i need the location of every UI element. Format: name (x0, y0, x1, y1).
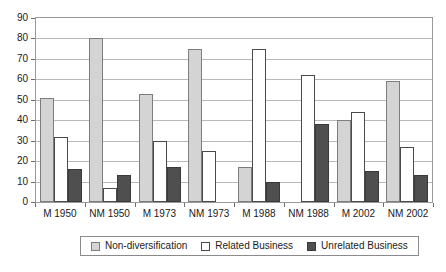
bar-related-business (202, 151, 216, 202)
legend-swatch-unrelated-business (307, 242, 316, 251)
legend-label: Related Business (215, 241, 293, 251)
bar-related-business (301, 75, 315, 202)
legend-entry[interactable]: Related Business (201, 241, 293, 251)
bar-group (135, 18, 185, 202)
bar-unrelated-business (315, 124, 329, 202)
bar-related-business (400, 147, 414, 202)
y-tick-label: 80 (17, 33, 28, 43)
x-axis-label: NM 1988 (284, 208, 334, 220)
y-tick-label: 90 (17, 13, 28, 23)
y-tick-label: 70 (17, 54, 28, 64)
legend-swatch-related-business (201, 242, 210, 251)
bar-unrelated-business (414, 175, 428, 202)
x-tick-mark (383, 203, 384, 207)
y-tick-label: 30 (17, 136, 28, 146)
x-axis-label: M 1950 (35, 208, 85, 220)
bar-non-diversification (40, 98, 54, 202)
legend-entry[interactable]: Non-diversification (91, 241, 187, 251)
legend-label: Unrelated Business (321, 241, 408, 251)
bar-non-diversification (188, 49, 202, 202)
bar-related-business (153, 141, 167, 202)
x-axis: M 1950NM 1950M 1973NM 1973M 1988NM 1988M… (35, 203, 433, 225)
bar-group (383, 18, 433, 202)
y-tick-label: 50 (17, 95, 28, 105)
bar-group (284, 18, 334, 202)
bar-group (333, 18, 383, 202)
y-tick-label: 0 (22, 197, 28, 207)
x-axis-label: NM 1973 (184, 208, 234, 220)
bar-group (234, 18, 284, 202)
y-tick-label: 60 (17, 74, 28, 84)
x-tick-mark (184, 203, 185, 207)
bar-unrelated-business (117, 175, 131, 202)
y-tick-label: 40 (17, 115, 28, 125)
legend-entry[interactable]: Unrelated Business (307, 241, 408, 251)
x-axis-label: NM 1950 (85, 208, 135, 220)
x-axis-labels: M 1950NM 1950M 1973NM 1973M 1988NM 1988M… (35, 208, 433, 220)
bar-related-business (252, 49, 266, 202)
x-tick-mark (135, 203, 136, 207)
bar-unrelated-business (68, 169, 82, 202)
bar-non-diversification (337, 120, 351, 202)
x-axis-label: M 1973 (135, 208, 185, 220)
y-tick-label: 20 (17, 156, 28, 166)
bar-chart-figure: 0102030405060708090 M 1950NM 1950M 1973N… (0, 0, 446, 272)
bar-group (86, 18, 136, 202)
x-axis-label: M 1988 (234, 208, 284, 220)
bar-related-business (54, 137, 68, 202)
bar-non-diversification (238, 167, 252, 202)
x-tick-mark (284, 203, 285, 207)
legend-label: Non-diversification (105, 241, 187, 251)
bar-unrelated-business (365, 171, 379, 202)
x-tick-mark (334, 203, 335, 207)
bar-non-diversification (139, 94, 153, 202)
x-tick-mark (433, 203, 434, 207)
bar-related-business (103, 188, 117, 202)
x-axis-label: M 2002 (334, 208, 384, 220)
x-tick-mark (35, 203, 36, 207)
bar-related-business (351, 112, 365, 202)
bar-group (36, 18, 86, 202)
x-tick-mark (85, 203, 86, 207)
bar-group (185, 18, 235, 202)
bar-unrelated-business (266, 182, 280, 202)
bar-non-diversification (89, 38, 103, 202)
y-tick-label: 10 (17, 177, 28, 187)
bars-layer (36, 18, 432, 202)
bar-non-diversification (386, 81, 400, 202)
x-tick-mark (234, 203, 235, 207)
bar-unrelated-business (167, 167, 181, 202)
legend-swatch-non-diversification (91, 242, 100, 251)
x-axis-label: NM 2002 (383, 208, 433, 220)
y-axis: 0102030405060708090 (0, 0, 35, 203)
chart-legend: Non-diversificationRelated BusinessUnrel… (80, 236, 419, 256)
